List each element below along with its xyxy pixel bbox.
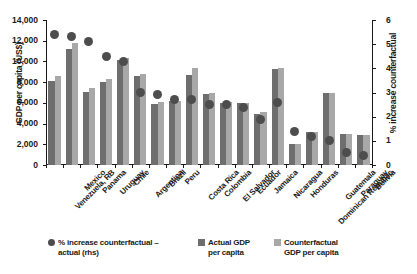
y-axis-right-tick-label: 6 — [386, 16, 391, 25]
legend-label-line1: Counterfactual — [284, 238, 374, 248]
legend-label-line2: actual (rhs) — [58, 248, 190, 258]
legend-item-counterfactual-gdp[interactable]: Counterfactual GDP per capita — [274, 238, 374, 258]
bar-counterfactual-gdp[interactable] — [226, 102, 232, 165]
bar-group — [186, 20, 198, 165]
bar-counterfactual-gdp[interactable] — [123, 58, 129, 165]
bar-counterfactual-gdp[interactable] — [243, 103, 249, 165]
y-axis-left-tickmark — [43, 165, 46, 166]
bar-counterfactual-gdp[interactable] — [363, 135, 369, 165]
bar-group — [48, 20, 60, 165]
legend-label-line2: per capita — [208, 248, 266, 258]
y-axis-right-tickmark — [373, 20, 376, 21]
y-axis-left-tickmark — [43, 61, 46, 62]
x-axis-label-peru: Peru — [183, 168, 201, 186]
dot-marker-pct-increase[interactable] — [239, 103, 248, 112]
y-axis-left-tickmark — [43, 103, 46, 104]
bar-counterfactual-gdp[interactable] — [72, 43, 78, 165]
y-axis-right-tickmark — [373, 117, 376, 118]
dot-marker-pct-increase[interactable] — [290, 127, 299, 136]
bar-group — [220, 20, 232, 165]
y-axis-left-tick-label: 2,000 — [17, 140, 38, 149]
circle-marker-icon — [48, 239, 55, 246]
y-axis-left-tickmark — [43, 144, 46, 145]
bar-counterfactual-gdp[interactable] — [158, 102, 164, 165]
bar-counterfactual-gdp[interactable] — [175, 101, 181, 165]
chart-legend: % increase counterfactual – actual (rhs)… — [48, 238, 388, 258]
y-axis-left-tick-label: 10,000 — [12, 57, 38, 66]
y-axis-right-ticks: 0123456 — [378, 0, 414, 274]
square-swatch-icon — [274, 239, 281, 246]
bar-counterfactual-gdp[interactable] — [89, 88, 95, 165]
bar-counterfactual-gdp[interactable] — [278, 68, 284, 165]
y-axis-right-tick-label: 4 — [386, 64, 391, 73]
legend-label-line1: Actual GDP — [208, 238, 266, 248]
legend-item-pct-increase[interactable]: % increase counterfactual – actual (rhs) — [48, 238, 190, 258]
y-axis-left-tickmark — [43, 41, 46, 42]
dot-marker-pct-increase[interactable] — [205, 100, 214, 109]
y-axis-right-tick-label: 5 — [386, 40, 391, 49]
bar-group — [357, 20, 369, 165]
bar-counterfactual-gdp[interactable] — [329, 93, 335, 166]
x-axis-label-chile: Chile — [132, 168, 151, 187]
bar-group — [203, 20, 215, 165]
y-axis-left-tick-label: 6,000 — [17, 98, 38, 107]
y-axis-left-tickmark — [43, 82, 46, 83]
y-axis-right-tickmark — [373, 68, 376, 69]
plot-area — [46, 20, 372, 165]
y-axis-left-ticks: 02,0004,0006,0008,00010,00012,00014,000 — [4, 0, 42, 274]
x-axis-category-labels: Venezuela, RBMexicoPanamaUruguayChileArg… — [0, 166, 417, 226]
dot-marker-pct-increase[interactable] — [359, 151, 368, 160]
bar-group — [306, 20, 318, 165]
dot-marker-pct-increase[interactable] — [119, 57, 128, 66]
y-axis-right-tickmark — [373, 165, 376, 166]
bar-group — [340, 20, 352, 165]
bar-group — [100, 20, 112, 165]
dot-marker-pct-increase[interactable] — [307, 132, 316, 141]
dot-marker-pct-increase[interactable] — [50, 30, 59, 39]
y-axis-right-tickmark — [373, 44, 376, 45]
y-axis-left-tick-label: 8,000 — [17, 78, 38, 87]
y-axis-right-tickmark — [373, 141, 376, 142]
legend-label-line1: % increase counterfactual – — [58, 238, 190, 248]
dot-marker-pct-increase[interactable] — [273, 98, 282, 107]
bar-group — [117, 20, 129, 165]
bar-group — [237, 20, 249, 165]
bar-group — [289, 20, 301, 165]
y-axis-left-tick-label: 4,000 — [17, 119, 38, 128]
y-axis-right-tick-label: 3 — [386, 88, 391, 97]
y-axis-left-tick-label: 14,000 — [12, 16, 38, 25]
dot-marker-pct-increase[interactable] — [222, 100, 231, 109]
y-axis-left-tick-label: 12,000 — [12, 36, 38, 45]
bar-group — [272, 20, 284, 165]
y-axis-left-tickmark — [43, 20, 46, 21]
dot-marker-pct-increase[interactable] — [256, 115, 265, 124]
bar-group — [169, 20, 181, 165]
bar-counterfactual-gdp[interactable] — [106, 79, 112, 165]
bar-group — [254, 20, 266, 165]
legend-item-actual-gdp[interactable]: Actual GDP per capita — [198, 238, 266, 258]
bar-counterfactual-gdp[interactable] — [192, 68, 198, 165]
dot-marker-pct-increase[interactable] — [136, 88, 145, 97]
y-axis-left-tickmark — [43, 124, 46, 125]
x-axis-label-bolivia: Bolivia — [374, 168, 398, 192]
chart-container: GDP per capita (US$) % increase counterf… — [0, 0, 417, 274]
bar-counterfactual-gdp[interactable] — [55, 76, 61, 165]
y-axis-right-tick-label: 1 — [386, 136, 391, 145]
y-axis-right-tick-label: 2 — [386, 112, 391, 121]
legend-label-line2: GDP per capita — [284, 248, 374, 258]
y-axis-right-tickmark — [373, 93, 376, 94]
dot-marker-pct-increase[interactable] — [102, 52, 111, 61]
square-swatch-icon — [198, 239, 205, 246]
bar-group — [66, 20, 78, 165]
bar-counterfactual-gdp[interactable] — [295, 144, 301, 165]
dot-marker-pct-increase[interactable] — [325, 136, 334, 145]
